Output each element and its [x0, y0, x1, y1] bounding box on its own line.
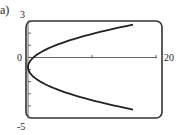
plot-frame — [26, 21, 162, 118]
parabola-curve — [28, 25, 133, 110]
chart-plot — [0, 0, 180, 135]
